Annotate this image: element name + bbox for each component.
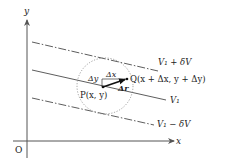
contour-line-upper <box>32 42 158 71</box>
origin-label: O <box>15 145 22 155</box>
y-axis-label: y <box>23 6 30 16</box>
label-dx: Δx <box>105 70 117 79</box>
label-lower-contour: V₁ − δV <box>157 119 191 129</box>
point-p <box>102 86 105 89</box>
x-axis-label: x <box>176 136 181 146</box>
label-upper-contour: V₁ + δV <box>158 57 192 67</box>
label-middle-contour: V₁ <box>170 95 180 105</box>
point-q <box>126 78 129 81</box>
gradient-diagram: y x O V₁ + δV V₁ V₁ − δV Q(x + Δx, y + Δ… <box>0 0 239 165</box>
label-q: Q(x + Δx, y + Δy) <box>130 74 206 84</box>
label-p: P(x, y) <box>80 90 107 100</box>
axes <box>13 20 174 158</box>
label-dy: Δy <box>87 74 99 83</box>
label-dr: Δr <box>117 83 129 93</box>
